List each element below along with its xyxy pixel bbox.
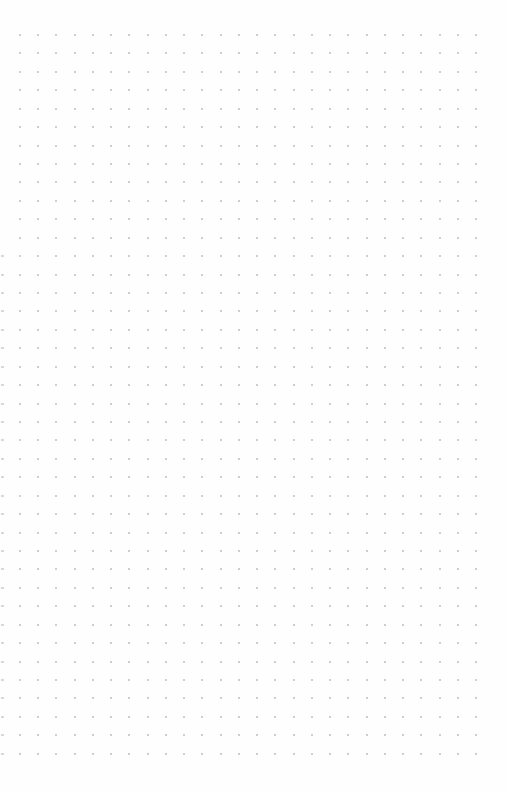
- edge-mark: [1, 605, 4, 607]
- grid-dot: [183, 624, 185, 626]
- grid-dot: [128, 642, 130, 644]
- grid-dot: [238, 642, 240, 644]
- grid-dot: [19, 384, 21, 386]
- grid-dot: [420, 163, 422, 165]
- grid-dot: [311, 310, 313, 312]
- grid-dot: [183, 753, 185, 755]
- grid-dot: [366, 347, 368, 349]
- grid-dot: [183, 403, 185, 405]
- grid-dot: [329, 329, 331, 331]
- grid-dot: [220, 661, 222, 663]
- grid-dot: [311, 126, 313, 128]
- grid-dot: [74, 568, 76, 570]
- grid-dot: [183, 439, 185, 441]
- grid-dot: [201, 587, 203, 589]
- grid-dot: [475, 163, 477, 165]
- grid-dot: [110, 661, 112, 663]
- grid-dot: [274, 642, 276, 644]
- grid-dot: [256, 568, 258, 570]
- grid-dot: [329, 734, 331, 736]
- grid-dot: [366, 624, 368, 626]
- grid-dot: [329, 550, 331, 552]
- grid-dot: [201, 642, 203, 644]
- grid-dot: [256, 126, 258, 128]
- grid-dot: [183, 52, 185, 54]
- grid-dot: [384, 310, 386, 312]
- grid-dot: [220, 403, 222, 405]
- grid-dot: [37, 716, 39, 718]
- grid-dot: [201, 697, 203, 699]
- grid-dot: [238, 89, 240, 91]
- grid-dot: [37, 458, 39, 460]
- grid-dot: [37, 366, 39, 368]
- grid-dot: [329, 624, 331, 626]
- grid-dot: [220, 34, 222, 36]
- grid-dot: [439, 753, 441, 755]
- grid-dot: [183, 255, 185, 257]
- grid-dot: [420, 34, 422, 36]
- grid-dot: [457, 255, 459, 257]
- grid-dot: [475, 661, 477, 663]
- grid-dot: [37, 495, 39, 497]
- grid-dot: [128, 126, 130, 128]
- grid-dot: [74, 495, 76, 497]
- grid-dot: [329, 52, 331, 54]
- grid-dot: [293, 218, 295, 220]
- grid-dot: [347, 403, 349, 405]
- grid-dot: [366, 145, 368, 147]
- grid-dot: [201, 384, 203, 386]
- grid-dot: [457, 476, 459, 478]
- grid-dot: [347, 624, 349, 626]
- grid-dot: [220, 255, 222, 257]
- grid-dot: [293, 403, 295, 405]
- grid-dot: [128, 458, 130, 460]
- grid-dot: [420, 716, 422, 718]
- grid-dot: [110, 550, 112, 552]
- grid-dot: [384, 587, 386, 589]
- grid-dot: [19, 108, 21, 110]
- grid-dot: [201, 624, 203, 626]
- grid-dot: [329, 255, 331, 257]
- grid-dot: [475, 255, 477, 257]
- grid-dot: [347, 679, 349, 681]
- grid-dot: [147, 753, 149, 755]
- grid-dot: [165, 200, 167, 202]
- grid-dot: [311, 513, 313, 515]
- grid-dot: [220, 237, 222, 239]
- grid-dot: [366, 734, 368, 736]
- grid-dot: [475, 292, 477, 294]
- grid-dot: [201, 734, 203, 736]
- grid-dot: [201, 513, 203, 515]
- grid-dot: [293, 181, 295, 183]
- grid-dot: [19, 310, 21, 312]
- grid-dot: [19, 661, 21, 663]
- grid-dot: [92, 200, 94, 202]
- grid-dot: [201, 421, 203, 423]
- grid-dot: [439, 329, 441, 331]
- grid-dot: [110, 181, 112, 183]
- grid-dot: [384, 476, 386, 478]
- grid-dot: [55, 89, 57, 91]
- grid-dot: [475, 550, 477, 552]
- grid-dot: [366, 587, 368, 589]
- grid-dot: [420, 421, 422, 423]
- grid-dot: [475, 89, 477, 91]
- grid-dot: [457, 734, 459, 736]
- grid-dot: [37, 200, 39, 202]
- grid-dot: [256, 181, 258, 183]
- grid-dot: [402, 605, 404, 607]
- grid-dot: [37, 624, 39, 626]
- grid-dot: [366, 642, 368, 644]
- grid-dot: [439, 347, 441, 349]
- grid-dot: [420, 697, 422, 699]
- grid-dot: [147, 310, 149, 312]
- grid-dot: [183, 163, 185, 165]
- grid-dot: [74, 458, 76, 460]
- grid-dot: [311, 71, 313, 73]
- grid-dot: [147, 624, 149, 626]
- grid-dot: [74, 163, 76, 165]
- grid-dot: [256, 624, 258, 626]
- grid-dot: [366, 697, 368, 699]
- grid-dot: [74, 274, 76, 276]
- grid-dot: [475, 347, 477, 349]
